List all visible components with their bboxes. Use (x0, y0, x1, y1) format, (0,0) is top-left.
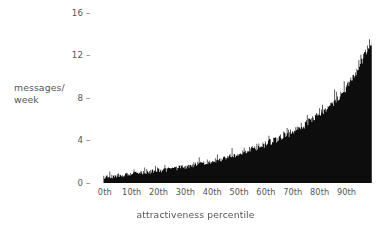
chart-figure: messages/ week 16–12–8–4–0– 0th10th20th3… (0, 0, 391, 238)
x-axis-title: attractiveness percentile (0, 209, 391, 220)
plot-area (0, 0, 391, 238)
